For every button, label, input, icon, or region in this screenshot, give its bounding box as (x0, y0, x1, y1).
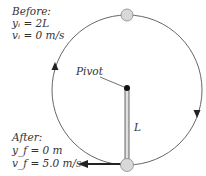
pivot-point (124, 85, 130, 91)
after-height: y_f = 0 m (12, 145, 63, 156)
before-height: yᵢ = 2L (12, 18, 49, 29)
after-velocity: v_f = 5.0 m/s (12, 158, 81, 169)
before-velocity: vᵢ = 0 m/s (12, 30, 64, 41)
rod (125, 88, 129, 164)
before-title: Before: (12, 6, 51, 17)
after-title: After: (12, 132, 42, 143)
pivot-leader-line (100, 77, 124, 87)
direction-arrow-up-icon (52, 62, 59, 70)
length-label: L (134, 122, 141, 133)
pivot-label: Pivot (76, 66, 103, 77)
direction-arrow-down-icon (194, 110, 201, 118)
ball-top (121, 9, 133, 21)
ball-bottom (121, 159, 134, 172)
